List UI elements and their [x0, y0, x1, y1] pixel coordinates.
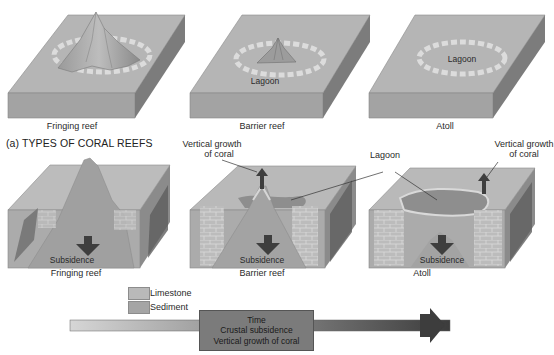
lagoon-label-barrier: Lagoon — [251, 76, 279, 86]
cross-section-fringing-reef — [8, 158, 170, 268]
legend-label-sediment: Sediment — [150, 302, 188, 312]
caption-atoll-bottom: Atoll — [413, 268, 431, 278]
callout-vertical-growth-right: Vertical growth of coral — [494, 139, 553, 159]
cross-section-barrier-reef — [190, 166, 356, 268]
cross-section-atoll — [369, 168, 535, 268]
time-label: Time — [247, 315, 266, 326]
subsidence-label-atoll: Subsidence — [420, 255, 464, 265]
legend-swatch-limestone — [128, 287, 150, 300]
top-block-atoll — [369, 15, 545, 118]
crustal-subsidence-label: Crustal subsidence — [220, 325, 292, 336]
caption-barrier-reef-bottom: Barrier reef — [239, 268, 284, 278]
vertical-growth-label: Vertical growth of coral — [214, 336, 300, 347]
subsidence-label-barrier: Subsidence — [240, 255, 284, 265]
callout-vertical-growth-left: Vertical growth of coral — [182, 139, 241, 159]
caption-atoll-top: Atoll — [436, 121, 454, 131]
subsidence-label-fringing: Subsidence — [50, 255, 94, 265]
top-block-fringing-reef — [8, 12, 185, 118]
time-process-box: Time Crustal subsidence Vertical growth … — [199, 310, 314, 351]
top-block-barrier-reef — [190, 15, 370, 118]
callout-lagoon: Lagoon — [370, 150, 400, 160]
caption-fringing-reef-bottom: Fringing reef — [51, 268, 102, 278]
legend-swatch-sediment — [128, 301, 150, 314]
caption-barrier-reef-top: Barrier reef — [239, 121, 284, 131]
legend-label-limestone: Limestone — [150, 288, 192, 298]
section-title: (a) TYPES OF CORAL REEFS — [6, 137, 153, 149]
caption-fringing-reef-top: Fringing reef — [47, 121, 98, 131]
lagoon-label-atoll: Lagoon — [448, 54, 476, 64]
